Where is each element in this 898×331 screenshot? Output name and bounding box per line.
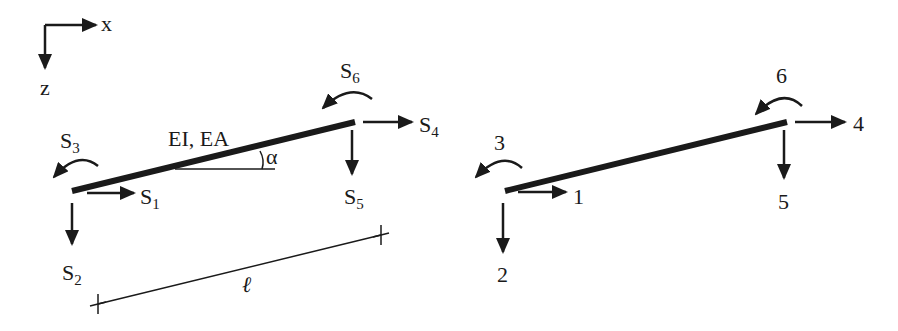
coordinate-axes: x z [40,11,112,100]
force-label-s5: S5 [344,184,364,212]
moment-arrow-6-icon [756,98,802,114]
length-label: ℓ [242,272,252,297]
dof-label-5: 5 [778,189,789,214]
force-label-s2: S2 [62,260,82,288]
angle-arc-icon [260,151,263,169]
moment-arrow-s6-icon [323,92,372,108]
dof-label-1: 1 [573,184,584,209]
angle-label: α [266,144,278,169]
force-label-s4: S4 [419,112,439,140]
force-label-s6: S6 [340,58,360,86]
dof-label-4: 4 [853,111,864,136]
left-element: α EI, EA S3 S1 S2 S6 S4 S5 ℓ [54,58,439,314]
force-label-s3: S3 [60,128,80,156]
length-dimension: ℓ [90,225,389,314]
dof-label-6: 6 [776,63,787,88]
moment-arrow-s3-icon [54,160,98,177]
property-label: EI, EA [168,126,229,151]
dof-label-2: 2 [497,262,508,287]
beam-member [505,122,787,191]
x-axis-label: x [101,11,112,36]
moment-arrow-3-icon [476,161,522,177]
right-element: 3 1 2 6 4 5 [476,63,864,287]
beam-element-diagram: x z α EI, EA S3 S1 S2 S6 S4 S5 [0,0,898,331]
dof-label-3: 3 [494,130,505,155]
z-axis-label: z [40,75,50,100]
force-label-s1: S1 [140,184,160,212]
